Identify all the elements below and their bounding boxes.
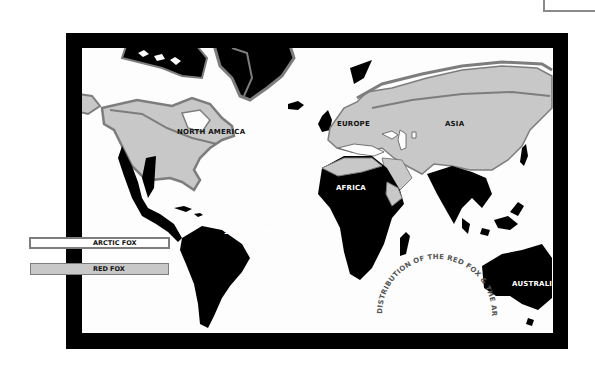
arctic-islands <box>122 48 207 78</box>
label-north-america: NORTH AMERICA <box>177 128 246 136</box>
label-asia: ASIA <box>445 120 465 128</box>
legend-arctic-fox-label: ARCTIC FOX <box>93 239 136 247</box>
legend-arctic-fox: ARCTIC FOX <box>29 237 170 249</box>
madagascar <box>400 232 410 256</box>
label-australia: AUSTRALIA <box>512 280 553 288</box>
corner-box <box>543 0 595 12</box>
label-africa: AFRICA <box>336 184 366 192</box>
label-europe: EUROPE <box>337 120 370 128</box>
world-map: NORTH AMERICA EUROPE ASIA AFRICA SOUTH A… <box>82 48 553 333</box>
south-america <box>180 226 250 328</box>
legend-red-fox-label: RED FOX <box>93 265 125 273</box>
alaska-tip <box>82 93 100 114</box>
greenland <box>212 48 294 100</box>
map-svg: NORTH AMERICA EUROPE ASIA AFRICA SOUTH A… <box>82 48 553 333</box>
label-south-america: SOUTH AMERICA <box>224 228 292 236</box>
south-asia <box>427 166 492 224</box>
legend-red-fox: RED FOX <box>30 263 169 275</box>
